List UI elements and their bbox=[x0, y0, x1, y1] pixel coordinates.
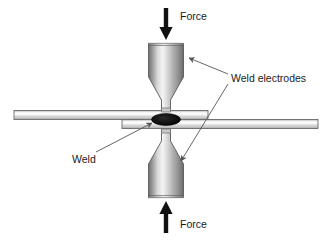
force-arrow-bottom-head bbox=[159, 201, 172, 214]
leader-line-top-electrode bbox=[189, 58, 228, 74]
bottom-electrode-cap-face bbox=[149, 196, 184, 198]
bottom-electrode-body bbox=[149, 129, 184, 197]
force-arrow-top-head bbox=[159, 27, 172, 40]
bottom-electrode bbox=[149, 129, 184, 198]
force-arrow-top-shaft bbox=[164, 8, 168, 29]
spot-welding-diagram: Force Force Weld electrodes Weld bbox=[0, 0, 331, 241]
top-electrode-tip bbox=[162, 108, 171, 112]
lower-workpiece-sheet bbox=[122, 120, 318, 129]
top-electrode-body bbox=[149, 45, 184, 113]
lower-sheet-body bbox=[122, 120, 318, 129]
top-electrode bbox=[149, 43, 184, 112]
weld-electrodes-label: Weld electrodes bbox=[231, 72, 306, 84]
force-arrow-top bbox=[159, 8, 172, 40]
force-arrow-bottom bbox=[159, 201, 172, 233]
bottom-electrode-tip bbox=[162, 129, 171, 133]
force-label-bottom: Force bbox=[180, 218, 207, 230]
top-electrode-cap-face bbox=[149, 43, 184, 45]
weld-label: Weld bbox=[72, 153, 96, 165]
force-arrow-bottom-shaft bbox=[164, 212, 168, 233]
force-label-top: Force bbox=[180, 10, 207, 22]
diagram-canvas: Force Force Weld electrodes Weld bbox=[0, 0, 331, 241]
weld-nugget bbox=[152, 114, 181, 126]
